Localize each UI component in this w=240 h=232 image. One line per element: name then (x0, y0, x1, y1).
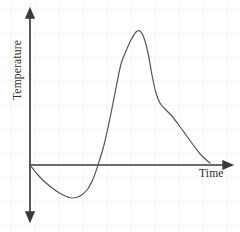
grid-lines (0, 0, 240, 232)
y-axis-label: Temperature (9, 15, 25, 125)
chart-canvas (0, 0, 240, 232)
temperature-vs-time-chart: Temperature Time (0, 0, 240, 232)
x-axis-label: Time (199, 167, 224, 179)
